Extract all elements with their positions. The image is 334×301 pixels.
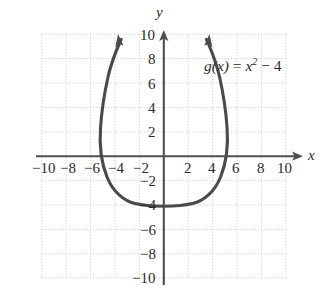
y-tick-label-neg6: −6 bbox=[140, 223, 156, 238]
y-tick-label-pos2: 2 bbox=[148, 125, 156, 140]
x-tick-label-neg10: −10 bbox=[32, 161, 55, 176]
x-tick-label-neg4: −4 bbox=[108, 161, 124, 176]
y-tick-label-pos4: 4 bbox=[148, 101, 156, 116]
coordinate-plane-figure: −10 −8 −6 −4 −2 2 4 6 8 10 10 8 6 4 2 −2… bbox=[0, 0, 334, 301]
y-tick-label-neg8: −8 bbox=[140, 247, 156, 262]
equation-rest: − 4 bbox=[257, 57, 281, 74]
x-tick-label-pos6: 6 bbox=[232, 161, 240, 176]
equation-lhs: g(x) bbox=[204, 57, 229, 74]
x-axis-label: x bbox=[308, 148, 315, 163]
y-axis-label: y bbox=[156, 5, 163, 20]
y-tick-label-neg10: −10 bbox=[132, 271, 155, 286]
x-tick-label-pos4: 4 bbox=[208, 161, 216, 176]
y-tick-label-pos10: 10 bbox=[140, 28, 155, 43]
x-tick-label-neg6: −6 bbox=[84, 161, 100, 176]
y-axis bbox=[159, 30, 168, 285]
graph-canvas bbox=[0, 0, 334, 301]
x-tick-label-pos2: 2 bbox=[184, 161, 192, 176]
y-tick-label-neg2: −2 bbox=[140, 174, 156, 189]
x-tick-label-neg8: −8 bbox=[60, 161, 76, 176]
function-equation-label: g(x) = x2 − 4 bbox=[204, 57, 282, 74]
x-tick-label-pos10: 10 bbox=[277, 161, 292, 176]
equation-equals: = bbox=[229, 57, 246, 74]
y-tick-label-neg4: −4 bbox=[140, 198, 156, 213]
x-tick-label-pos8: 8 bbox=[257, 161, 265, 176]
y-tick-label-pos8: 8 bbox=[148, 52, 156, 67]
y-tick-label-pos6: 6 bbox=[148, 77, 156, 92]
